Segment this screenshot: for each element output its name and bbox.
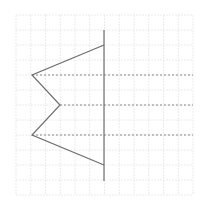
diagram-canvas: Reflection of a polyline across a vertic… bbox=[0, 0, 202, 211]
diagram-svg bbox=[0, 0, 202, 211]
